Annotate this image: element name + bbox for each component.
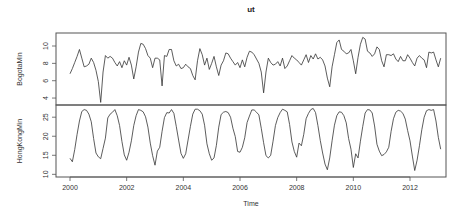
y-tick-label: 10 (42, 170, 49, 178)
plot-frame-bogota (56, 33, 446, 105)
x-axis: 2000200220042006200820102012 (62, 177, 418, 191)
x-tick-label: 2004 (176, 184, 192, 191)
x-tick-label: 2000 (62, 184, 78, 191)
x-tick-label: 2010 (346, 184, 362, 191)
panel-hongkong: HongKongMin 10152025 (16, 108, 441, 178)
y-tick-label: 20 (42, 132, 49, 140)
y-tick-label: 15 (42, 151, 49, 159)
y-tick-label: 8 (42, 61, 49, 65)
x-tick-label: 2006 (232, 184, 248, 191)
x-axis-label: Time (243, 200, 258, 207)
y-tick-label: 4 (42, 96, 49, 100)
y-axis-bogota: 46810 (42, 42, 56, 100)
chart: ut BogotaMin 46810 HongKongMin 10152025 … (0, 0, 468, 222)
x-tick-label: 2002 (119, 184, 135, 191)
y-tick-label: 6 (42, 79, 49, 83)
panel-bogota: BogotaMin 46810 (16, 37, 441, 102)
chart-title: ut (247, 5, 255, 14)
x-tick-label: 2008 (289, 184, 305, 191)
series-line-hongkong (70, 108, 441, 170)
y-axis-hongkong: 10152025 (42, 113, 56, 178)
y-tick-label: 25 (42, 113, 49, 121)
y-axis-label-bogota: BogotaMin (16, 52, 24, 86)
plot-frame-hongkong (56, 105, 446, 177)
y-tick-label: 10 (42, 42, 49, 50)
x-tick-label: 2012 (402, 184, 418, 191)
time-series-chart: ut BogotaMin 46810 HongKongMin 10152025 … (0, 0, 468, 222)
y-axis-label-hongkong: HongKongMin (16, 119, 24, 163)
series-line-bogota (70, 37, 441, 102)
